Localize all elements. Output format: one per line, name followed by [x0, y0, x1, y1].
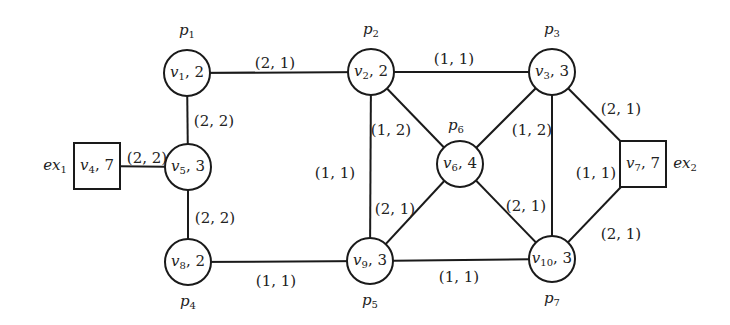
edge-label: (1, 2)	[371, 121, 411, 139]
node-v4: v4, 7	[74, 143, 120, 189]
node-v3: v3, 3	[529, 49, 575, 95]
partition-label: p6	[448, 116, 464, 135]
edge-label: (2, 2)	[195, 209, 235, 227]
edge-label: (2, 1)	[375, 200, 415, 218]
partition-label: p7	[544, 289, 560, 308]
partition-label: p1	[179, 21, 195, 40]
edge-label: (1, 1)	[256, 272, 296, 290]
node-label: v7, 7	[626, 154, 660, 173]
edge-label: (2, 2)	[194, 112, 234, 130]
node-v6: v6, 4	[437, 141, 483, 187]
edge-v1-v2	[187, 72, 371, 73]
node-label: v2, 2	[354, 62, 388, 81]
partition-label: p4	[180, 292, 196, 311]
edge-label: (1, 1)	[434, 50, 474, 68]
node-label: v9, 3	[353, 251, 387, 270]
node-v8: v8, 2	[165, 239, 211, 285]
partition-label: p5	[362, 291, 378, 310]
edge-v9-v10	[370, 259, 552, 261]
partition-label: p2	[363, 20, 379, 39]
node-label: v1, 2	[170, 63, 204, 82]
edge-label: (2, 1)	[601, 100, 641, 118]
edge-v8-v9	[188, 261, 370, 262]
node-label: v5, 3	[171, 157, 205, 176]
edge-v2-v9	[370, 72, 371, 261]
edge-label: (1, 1)	[576, 164, 616, 182]
partition-label: p3	[544, 20, 560, 39]
edge-label: (1, 2)	[512, 121, 552, 139]
node-v2: v2, 2	[348, 49, 394, 95]
edge-label: (2, 1)	[255, 54, 295, 72]
edge-label: (1, 1)	[439, 268, 479, 286]
node-v1: v1, 2	[164, 50, 210, 96]
edge-label: (1, 1)	[315, 164, 355, 182]
node-label: v3, 3	[535, 62, 569, 81]
node-v7: v7, 7	[620, 141, 666, 187]
node-label: v8, 2	[171, 252, 205, 271]
edge-label: (2, 2)	[127, 149, 167, 167]
graph-diagram: (2, 1)(2, 2)(2, 2)(2, 2)(1, 1)(1, 1)(1, …	[0, 0, 730, 325]
node-v9: v9, 3	[347, 238, 393, 284]
edge-label: (2, 1)	[506, 197, 546, 215]
node-v5: v5, 3	[165, 144, 211, 190]
node-label: v4, 7	[80, 156, 114, 175]
node-v10: v10, 3	[529, 236, 575, 282]
external-label: ex1	[43, 156, 67, 175]
external-label: ex2	[673, 154, 697, 173]
edge-label: (2, 1)	[601, 225, 641, 243]
node-label: v6, 4	[443, 154, 477, 173]
